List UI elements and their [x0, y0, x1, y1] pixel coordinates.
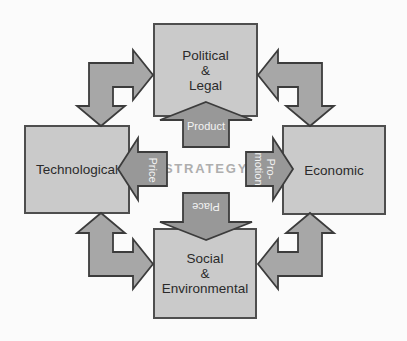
- elbow-arrow-bottom-left: [77, 213, 153, 289]
- price-arrow-label: Price: [147, 157, 159, 182]
- box-technological-label: Technological: [36, 162, 118, 177]
- box-political-legal-line3: Legal: [189, 78, 222, 93]
- box-political-legal-line1: Political: [182, 48, 229, 63]
- place-arrow-label-group: Place: [192, 201, 220, 213]
- promotion-arrow-label-line1: Pro-: [265, 159, 277, 180]
- price-arrow-label-group: Price: [147, 157, 159, 182]
- box-political-legal: Political & Legal: [153, 23, 258, 117]
- box-social-environmental-line2: &: [200, 266, 209, 281]
- strategy-label: STRATEGY: [163, 161, 249, 177]
- place-arrow-label: Place: [192, 201, 220, 213]
- promotion-arrow-label-group: Pro- motion: [253, 152, 277, 185]
- elbow-arrow-top-right: [258, 50, 334, 126]
- elbow-arrow-top-left: [77, 50, 153, 126]
- product-arrow-label: Product: [187, 120, 225, 132]
- box-social-environmental: Social & Environmental: [153, 228, 257, 319]
- strategy-environment-diagram: Political & Legal Technological Economic…: [0, 0, 407, 341]
- box-social-environmental-line3: Environmental: [162, 281, 248, 296]
- box-economic-label: Economic: [304, 163, 363, 178]
- box-economic: Economic: [282, 125, 386, 215]
- box-technological: Technological: [24, 125, 130, 214]
- elbow-arrow-bottom-right: [258, 213, 334, 289]
- box-social-environmental-line1: Social: [187, 251, 224, 266]
- promotion-arrow-label-line2: motion: [253, 152, 265, 185]
- box-political-legal-line2: &: [201, 63, 210, 78]
